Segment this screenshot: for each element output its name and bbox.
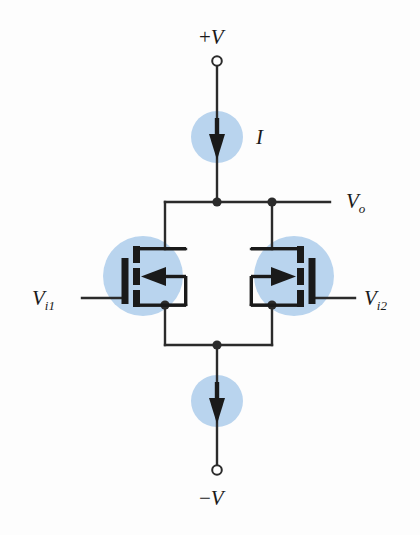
label-supply-positive-sign: + (199, 25, 211, 49)
label-input-right: Vi2 (364, 286, 387, 313)
label-output-subscript: o (359, 201, 366, 216)
junction-bottom-rail-center (212, 340, 221, 349)
transistor-right-gate-bar (309, 258, 316, 304)
label-input-left-subscript: i1 (45, 298, 55, 313)
transistor-right-channel-body (297, 268, 304, 285)
transistor-right-source-lead (251, 304, 301, 307)
transistor-right-drain-lead (251, 247, 301, 250)
label-supply-negative-value: V (211, 486, 226, 510)
circuit-schematic: +V −V I Vo Vi1 Vi2 (0, 0, 420, 535)
transistor-left-drain-lead (136, 247, 186, 250)
transistor-left-source-lead (136, 304, 186, 307)
circuit-figure: +V −V I Vo Vi1 Vi2 (0, 0, 420, 535)
transistor-left-channel-body (133, 268, 140, 285)
transistor-right-body-source-link (250, 276, 253, 306)
label-output: Vo (346, 189, 366, 216)
transistor-left-gate-bar (122, 258, 129, 304)
junction-output-node (267, 197, 276, 206)
junction-top-rail-center (212, 197, 221, 206)
label-supply-positive: +V (199, 25, 226, 49)
label-input-right-subscript: i2 (377, 298, 388, 313)
label-current-source: I (255, 125, 264, 149)
label-layer: +V −V I Vo Vi1 Vi2 (32, 25, 387, 510)
terminal-positive-supply-icon (212, 56, 222, 66)
label-supply-negative: −V (199, 486, 226, 510)
label-supply-negative-sign: − (199, 486, 211, 510)
terminal-negative-supply-icon (212, 465, 222, 475)
transistor-left-body-source-link (184, 276, 187, 306)
label-input-left: Vi1 (32, 286, 55, 313)
label-supply-positive-value: V (211, 25, 226, 49)
